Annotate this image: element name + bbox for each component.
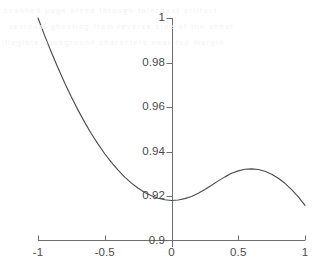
y-tick-label: 0.96 [142, 101, 165, 113]
scan-artifact-line-2: residual ghosting from reverse side of t… [10, 20, 234, 33]
scan-artifact-line-1: scanned page bleed through faint text ar… [4, 4, 218, 17]
x-tick-label: 0.5 [218, 247, 258, 259]
x-tick-label: -1 [18, 247, 58, 259]
x-tick-label: 0 [152, 247, 192, 259]
axes-group [38, 18, 306, 247]
y-tick-label: 0.98 [142, 57, 165, 69]
x-axis-ticks [39, 236, 306, 241]
y-tick-label: 0.92 [142, 190, 165, 202]
x-tick-label: -0.5 [85, 247, 125, 259]
y-tick-label: 0.94 [142, 146, 165, 158]
x-tick-label: 1 [285, 247, 323, 259]
chart-figure: 0.90.920.940.960.981 -1-0.500.51 scanned… [0, 0, 323, 276]
scan-artifact-line-3: illegible background characters near top… [2, 36, 225, 49]
y-tick-label: 0.9 [149, 235, 165, 247]
